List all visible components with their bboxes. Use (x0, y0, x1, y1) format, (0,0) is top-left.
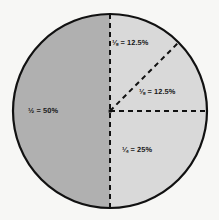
slice-label-one-half: ½ = 50% (28, 106, 58, 115)
center-point-marker (109, 110, 112, 113)
slice-label-one-eighth-top: ⅛ = 12.5% (112, 38, 148, 47)
slice-label-one-quarter: ¼ = 25% (122, 145, 152, 154)
slice-label-one-eighth-middle: ⅛ = 12.5% (139, 87, 175, 96)
fraction-pie-chart: ½ = 50% ⅛ = 12.5% ⅛ = 12.5% ¼ = 25% (0, 0, 219, 220)
